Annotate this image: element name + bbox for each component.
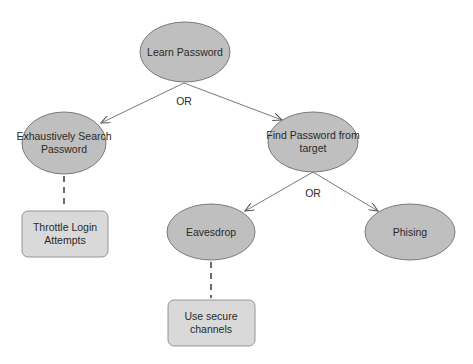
or-operator-find-target: OR — [305, 187, 321, 199]
label-throttle-login-attempts: Throttle Login Attempts — [33, 221, 97, 247]
edge-root-to-exhaustive — [101, 83, 184, 123]
label-eavesdrop: Eavesdrop — [186, 226, 236, 239]
edge-find-target-to-phishing — [313, 172, 378, 211]
label-use-secure-channels: Use secure channels — [184, 310, 237, 336]
label-find-password-from-target: Find Password from target — [266, 129, 359, 155]
edge-find-target-to-eavesdrop — [245, 172, 313, 211]
label-exhaustively-search-password: Exhaustively Search Password — [16, 130, 111, 156]
or-operator-root: OR — [176, 95, 192, 107]
label-phishing: Phising — [393, 226, 427, 239]
label-learn-password: Learn Password — [147, 46, 223, 59]
edge-root-to-find-target — [184, 83, 282, 120]
